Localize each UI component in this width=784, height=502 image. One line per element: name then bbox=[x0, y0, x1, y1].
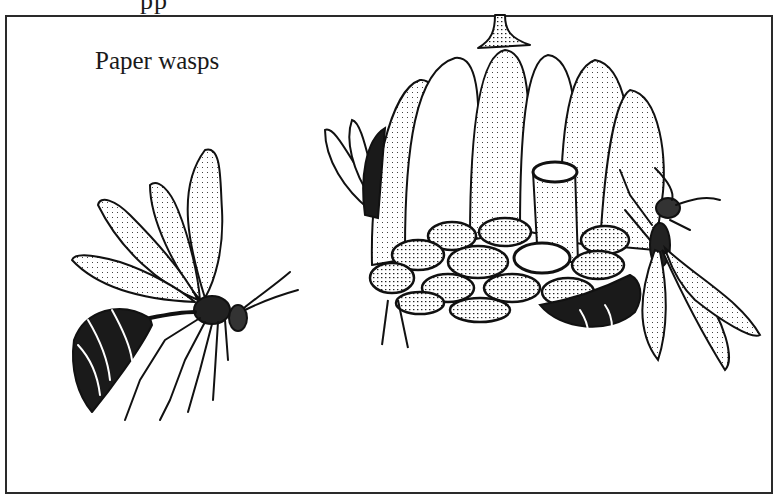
illustration-canvas bbox=[0, 0, 784, 502]
figure: pp Paper wasps bbox=[0, 0, 784, 502]
flying-wasp-icon bbox=[72, 150, 298, 420]
paper-nest-icon bbox=[370, 15, 664, 322]
